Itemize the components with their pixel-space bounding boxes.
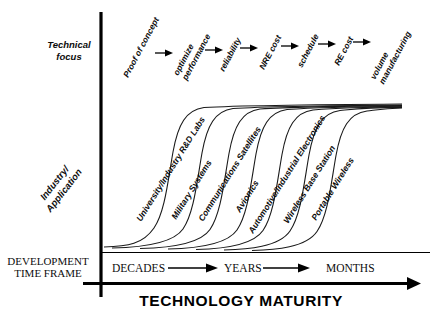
technical-focus-label-line1: Technical bbox=[47, 39, 91, 50]
technical-focus-label-line2: focus bbox=[56, 51, 81, 62]
curve-label-avionics: Avionics bbox=[233, 178, 261, 215]
curve-label-0-text: University/Industry R&D Labs bbox=[134, 115, 207, 223]
diagram-canvas: Technical focus Industry/ Application DE… bbox=[0, 0, 430, 319]
technical-focus-stage-optimize-performance: optimize performance bbox=[170, 27, 212, 82]
technical-focus-stage-re-cost: RE cost bbox=[332, 34, 356, 67]
time-frame-tick-months: MONTHS bbox=[326, 262, 375, 274]
technical-focus-arrow-2 bbox=[205, 47, 223, 54]
time-frame-tick-years: YEARS bbox=[224, 262, 262, 274]
technical-focus-arrow-1 bbox=[155, 50, 173, 57]
time-frame-arrow-years-months bbox=[263, 264, 310, 273]
industry-application-label: Industry/ Application bbox=[33, 159, 84, 215]
development-time-frame-label-line1: DEVELOPMENT bbox=[7, 255, 89, 267]
time-frame-tick-decades: DECADES bbox=[112, 262, 165, 274]
stage-label-3-line1: NRE cost bbox=[257, 32, 284, 71]
curve-label-university-industry-rd-labs: University/Industry R&D Labs bbox=[134, 115, 207, 223]
technical-focus-stage-schedule: schedule bbox=[295, 32, 321, 69]
technical-focus-stage-reliability: reliability bbox=[217, 35, 243, 72]
technical-focus-stage-nre-cost: NRE cost bbox=[257, 32, 284, 71]
technical-focus-stage-proof-of-concept: Proof of concept bbox=[121, 14, 162, 79]
s-curve-portable-wireless bbox=[252, 108, 402, 251]
stage-label-2-line1: reliability bbox=[217, 35, 243, 72]
stage-label-5-line1: RE cost bbox=[332, 34, 356, 67]
time-frame-arrow-decades-years bbox=[168, 264, 218, 273]
technical-focus-arrow-3 bbox=[240, 45, 258, 52]
technical-focus-arrow-4 bbox=[281, 43, 299, 50]
diagram-title: TECHNOLOGY MATURITY bbox=[139, 292, 343, 309]
technical-focus-arrow-6 bbox=[353, 39, 371, 46]
technical-focus-stage-volume-manufacturing: volume manufacturing bbox=[368, 25, 413, 86]
technology-maturity-diagram: Technical focus Industry/ Application DE… bbox=[0, 0, 430, 319]
s-curve-communications-satellites bbox=[140, 106, 402, 249]
horizontal-axis-arrowhead bbox=[407, 277, 421, 290]
technical-focus-arrow-5 bbox=[318, 41, 336, 48]
stage-label-4-line1: schedule bbox=[295, 32, 321, 69]
stage-label-0-line1: Proof of concept bbox=[121, 14, 162, 79]
development-time-frame-label-line2: TIME FRAME bbox=[14, 267, 82, 279]
curve-label-3-text: Avionics bbox=[233, 178, 261, 215]
